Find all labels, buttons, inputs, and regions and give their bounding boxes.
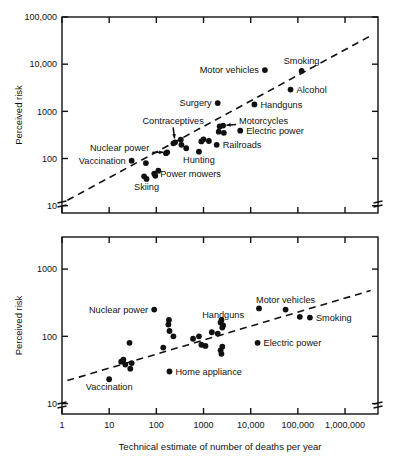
- bottom-panel-point-label: Vaccination: [86, 382, 133, 392]
- top-panel-data-point: [262, 67, 268, 73]
- bottom-panel-data-point: [122, 362, 128, 368]
- figure-root: 10100100010,000100,000VaccinationSkiingP…: [0, 0, 394, 456]
- bottom-panel-data-point: [196, 333, 202, 339]
- top-panel-ytick-label: 100,000: [24, 12, 57, 22]
- top-panel-data-point: [206, 138, 212, 144]
- bottom-panel-xtick-label: 1,000,000: [325, 420, 365, 430]
- top-panel-point-label: Hunting: [183, 155, 215, 165]
- bottom-panel-data-point: [167, 328, 173, 334]
- top-panel-label-arrowhead: [226, 123, 230, 127]
- bottom-panel-data-point: [127, 340, 133, 346]
- top-panel-data-point: [164, 149, 170, 155]
- risk-perception-figure: 10100100010,000100,000VaccinationSkiingP…: [0, 0, 394, 456]
- top-panel-point-label: Motor vehicles: [200, 65, 260, 75]
- bottom-panel-data-point: [220, 323, 226, 329]
- top-panel-data-point: [152, 173, 158, 179]
- bottom-panel-data-point: [166, 317, 172, 323]
- top-panel-data-point: [183, 145, 189, 151]
- bottom-panel-point-label: Motor vehicles: [256, 295, 316, 305]
- top-panel-point-label: Power mowers: [160, 169, 221, 179]
- bottom-panel-xtick-label: 100: [149, 420, 164, 430]
- bottom-panel-data-point: [297, 314, 303, 320]
- bottom-panel-xtick-label: 1: [59, 420, 64, 430]
- top-panel-data-point: [201, 136, 207, 142]
- top-panel-ytick-label: 1000: [37, 107, 57, 117]
- top-panel-point-label: Skiing: [134, 182, 159, 192]
- top-panel-data-point: [221, 130, 227, 136]
- top-panel-point-label: Contraceptives: [142, 116, 204, 126]
- bottom-panel-data-point: [283, 307, 289, 313]
- bottom-panel-xtick-label: 100,000: [282, 420, 315, 430]
- bottom-panel-data-point: [256, 306, 262, 312]
- top-panel-y-axis-title: Perceived risk: [13, 85, 24, 145]
- top-panel-data-point: [178, 137, 184, 143]
- top-panel-point-label: Electric power: [246, 126, 304, 136]
- top-panel-point-label: Smoking: [284, 56, 320, 66]
- top-panel-data-point: [216, 129, 222, 135]
- bottom-panel-xtick-label: 10: [104, 420, 114, 430]
- top-panel-ytick-label: 10,000: [29, 59, 57, 69]
- bottom-panel-point-label: Electric power: [264, 338, 322, 348]
- bottom-panel-ytick-label: 10: [47, 399, 57, 409]
- bottom-panel: 101001000110100100010,000100,0001,000,00…: [13, 237, 383, 452]
- top-panel-point-label: Nuclear power: [90, 143, 149, 153]
- top-panel-label-arrowhead: [159, 150, 163, 154]
- bottom-panel-data-point: [129, 360, 135, 366]
- bottom-panel-data-point: [203, 343, 209, 349]
- bottom-panel-x-axis-title: Technical estimate of number of deaths p…: [119, 441, 322, 452]
- top-panel-point-label: Handguns: [260, 100, 302, 110]
- top-panel-data-point: [155, 168, 161, 174]
- top-panel-data-point: [299, 68, 305, 74]
- bottom-panel-xtick-label: 10,000: [237, 420, 265, 430]
- top-panel-point-label: Vaccination: [79, 156, 126, 166]
- bottom-panel-data-point: [151, 307, 157, 313]
- top-panel-ytick-label: 10: [47, 201, 57, 211]
- bottom-panel-point-label: Home appliance: [175, 367, 241, 377]
- bottom-panel-data-point: [190, 336, 196, 342]
- bottom-panel-data-point: [219, 344, 225, 350]
- top-panel-data-point: [143, 160, 149, 166]
- top-panel-data-point: [172, 139, 178, 145]
- bottom-panel-data-point: [219, 351, 225, 357]
- top-panel-data-point: [237, 128, 243, 134]
- bottom-panel-point-label: Nuclear power: [89, 305, 148, 315]
- bottom-panel-data-point: [215, 331, 221, 337]
- bottom-panel-ytick-label: 1000: [37, 264, 57, 274]
- top-panel-point-label: Surgery: [180, 98, 213, 108]
- bottom-panel-data-point: [171, 333, 177, 339]
- top-panel-ytick-label: 100: [42, 154, 57, 164]
- bottom-panel-data-point: [120, 357, 126, 363]
- bottom-panel-data-point: [127, 366, 133, 372]
- bottom-panel-point-label: Handguns: [202, 310, 244, 320]
- top-panel-data-point: [215, 100, 221, 106]
- top-panel-data-point: [220, 123, 226, 129]
- bottom-panel-xtick-label: 1000: [193, 420, 213, 430]
- top-panel-data-point: [129, 158, 135, 164]
- top-panel-data-point: [288, 87, 294, 93]
- top-panel-frame: [62, 17, 378, 213]
- top-panel-data-point: [214, 142, 220, 148]
- bottom-panel-ytick-label: 100: [42, 332, 57, 342]
- bottom-panel-data-point: [307, 315, 313, 321]
- bottom-panel-data-point: [167, 369, 173, 375]
- top-panel-data-point: [179, 142, 185, 148]
- top-panel-data-point: [252, 102, 258, 108]
- top-panel-point-label: Motorcycles: [239, 116, 288, 126]
- bottom-panel-data-point: [209, 329, 215, 335]
- top-panel-point-label: Railroads: [223, 140, 262, 150]
- bottom-panel-data-point: [255, 340, 261, 346]
- top-panel-point-label: Alcohol: [297, 85, 327, 95]
- bottom-panel-y-axis-title: Perceived risk: [13, 295, 24, 355]
- bottom-panel-data-point: [160, 345, 166, 351]
- bottom-panel-point-label: Smoking: [316, 313, 352, 323]
- top-panel: 10100100010,000100,000VaccinationSkiingP…: [13, 12, 383, 213]
